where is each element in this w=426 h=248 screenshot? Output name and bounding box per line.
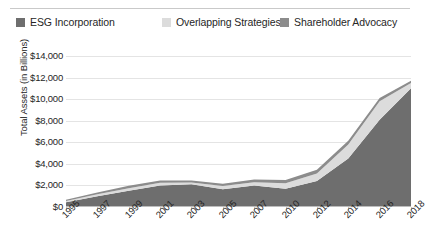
x-axis-tick-label: 1995	[60, 199, 81, 220]
x-axis-tick-label: 2012	[311, 199, 332, 220]
x-axis-tick-label: 2003	[185, 199, 206, 220]
x-axis-tick-label: 2014	[342, 199, 363, 220]
x-axis-tick-label: 2007	[248, 199, 269, 220]
x-axis-tick-label: 2018	[405, 199, 426, 220]
x-axis-tick-label: 2016	[374, 199, 395, 220]
x-axis-tick-label: 2005	[217, 199, 238, 220]
x-axis-tick-label: 2001	[154, 199, 175, 220]
x-axis-tick-label: 2010	[280, 199, 301, 220]
x-axis-tick-label: 1999	[123, 199, 144, 220]
x-axis-tick-label: 1997	[91, 199, 112, 220]
